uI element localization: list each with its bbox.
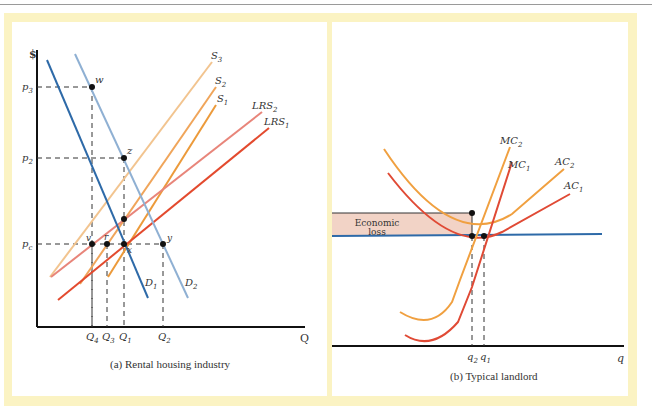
svg-text:w: w	[95, 74, 104, 85]
caption-b: (b) Typical landlord	[450, 370, 538, 382]
svg-text:q: q	[617, 352, 624, 365]
loss-label-2: loss	[368, 227, 386, 237]
panel-rental-housing-industry: $ Q w	[12, 22, 327, 396]
landlord-chart: $ q Economic loss MC2 MC1 AC2 AC1 pc q2 …	[332, 22, 628, 396]
svg-text:S1: S1	[217, 93, 228, 107]
svg-text:AC1: AC1	[563, 180, 583, 194]
svg-text:Q4: Q4	[86, 331, 99, 345]
svg-text:MC1: MC1	[507, 159, 530, 173]
svg-text:Q1: Q1	[119, 331, 132, 345]
svg-text:v: v	[86, 233, 91, 243]
svg-text:pc: pc	[22, 238, 32, 252]
svg-text:D1: D1	[144, 277, 158, 291]
svg-text:r: r	[104, 232, 109, 242]
svg-text:p2: p2	[22, 152, 33, 166]
svg-text:Q2: Q2	[158, 331, 171, 345]
svg-text:Q3: Q3	[102, 331, 115, 345]
curve-mc1	[405, 162, 512, 341]
svg-text:S2: S2	[215, 75, 227, 89]
svg-text:p3: p3	[22, 81, 33, 95]
svg-text:LRS2: LRS2	[251, 100, 278, 114]
svg-text:z: z	[126, 145, 133, 156]
caption-a: (a) Rental housing industry	[110, 358, 230, 370]
svg-text:AC2: AC2	[554, 156, 575, 170]
industry-chart: $ Q w	[12, 22, 327, 396]
svg-text:MC2: MC2	[499, 135, 523, 149]
svg-text:S3: S3	[211, 50, 223, 64]
svg-text:q1: q1	[480, 351, 491, 365]
svg-text:q2: q2	[467, 351, 478, 365]
svg-text:x: x	[127, 245, 132, 255]
y-axis-label: $	[29, 48, 37, 61]
panel-typical-landlord: $ q Economic loss MC2 MC1 AC2 AC1 pc q2 …	[332, 22, 628, 396]
svg-text:D2: D2	[184, 277, 198, 291]
svg-text:y: y	[166, 233, 173, 243]
svg-text:LRS1: LRS1	[263, 116, 290, 130]
top-rule	[0, 4, 652, 5]
x-axis-label: Q	[300, 332, 309, 345]
